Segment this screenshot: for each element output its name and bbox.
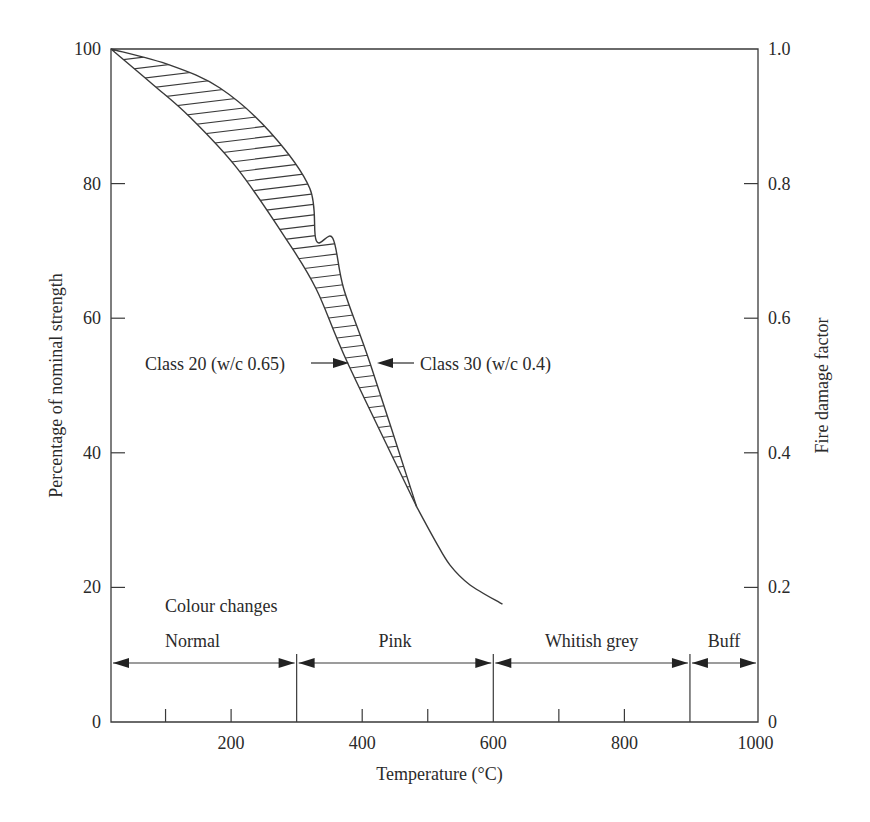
hatch-line xyxy=(100,71,460,115)
hatch-line xyxy=(100,260,460,304)
class-20-curve xyxy=(111,49,417,507)
hatch-line xyxy=(100,386,460,430)
hatch-line xyxy=(100,197,460,241)
colour-change-bands: Colour changesNormalPinkWhitish greyBuff xyxy=(113,596,756,722)
y-tick-label: 100 xyxy=(74,39,101,59)
hatch-line xyxy=(100,449,460,493)
y2-tick-label: 0.6 xyxy=(768,308,791,328)
hatch-line xyxy=(100,50,460,94)
hatch-line xyxy=(100,313,460,357)
hatch-line xyxy=(100,281,460,325)
arrow-left-icon xyxy=(299,658,315,668)
hatch-line xyxy=(100,376,460,420)
hatch-line xyxy=(100,176,460,220)
hatch-line xyxy=(100,19,460,63)
hatch-line xyxy=(100,103,460,147)
hatch-line xyxy=(100,155,460,199)
hatch-line xyxy=(100,134,460,178)
arrow-right-icon xyxy=(740,658,756,668)
strength-curves xyxy=(111,49,502,604)
arrow-right-icon xyxy=(279,658,295,668)
y-tick-label: 80 xyxy=(83,174,101,194)
x-axis-title: Temperature (°C) xyxy=(376,764,502,785)
hatch-line xyxy=(100,428,460,472)
hatch-line xyxy=(100,292,460,336)
class-30-label: Class 30 (w/c 0.4) xyxy=(420,354,551,375)
arrow-left-icon xyxy=(113,658,129,668)
hatch-line xyxy=(100,124,460,168)
y2-tick-label: 0.2 xyxy=(768,577,791,597)
y2-tick-label: 1.0 xyxy=(768,39,791,59)
arrow-right-icon xyxy=(672,658,688,668)
hatch-line xyxy=(100,239,460,283)
hatch-line xyxy=(100,187,460,231)
hatch-line xyxy=(100,302,460,346)
axes: 200400600800100002040608010000.20.40.60.… xyxy=(46,39,832,785)
hatch-line xyxy=(100,166,460,210)
y2-tick-label: 0 xyxy=(768,712,777,732)
hatched-band xyxy=(100,0,460,535)
colour-changes-title: Colour changes xyxy=(165,596,277,616)
band-label: Pink xyxy=(378,631,411,651)
hatch-line xyxy=(100,407,460,451)
hatch-line xyxy=(100,0,460,42)
class-20-label: Class 20 (w/c 0.65) xyxy=(145,354,285,375)
hatch-line xyxy=(100,418,460,462)
y2-axis-title: Fire damage factor xyxy=(812,318,832,454)
hatch-line xyxy=(100,61,460,105)
band-label: Normal xyxy=(165,631,220,651)
combined-tail-curve xyxy=(417,507,503,605)
hatch-line xyxy=(100,397,460,441)
x-tick-label: 400 xyxy=(349,733,376,753)
arrow-left-icon xyxy=(495,658,511,668)
hatch-line xyxy=(100,113,460,157)
y2-tick-label: 0.8 xyxy=(768,174,791,194)
strength-vs-temperature-chart: 200400600800100002040608010000.20.40.60.… xyxy=(0,0,870,822)
arrow-left-icon xyxy=(692,658,708,668)
hatch-line xyxy=(100,229,460,273)
hatch-line xyxy=(100,8,460,52)
hatch-line xyxy=(100,481,460,525)
x-tick-label: 800 xyxy=(611,733,638,753)
band-label: Buff xyxy=(708,631,741,651)
arrow-right-icon xyxy=(475,658,491,668)
class-30-curve xyxy=(111,49,417,507)
hatch-line xyxy=(100,491,460,535)
y-tick-label: 0 xyxy=(92,712,101,732)
y-tick-label: 40 xyxy=(83,443,101,463)
hatch-line xyxy=(100,470,460,514)
hatch-line xyxy=(100,145,460,189)
hatch-line xyxy=(100,460,460,504)
hatch-line xyxy=(100,40,460,84)
x-tick-label: 200 xyxy=(218,733,245,753)
y-tick-label: 20 xyxy=(83,577,101,597)
hatch-line xyxy=(100,82,460,126)
y2-tick-label: 0.4 xyxy=(768,443,791,463)
hatch-line xyxy=(100,0,460,31)
y-tick-label: 60 xyxy=(83,308,101,328)
hatch-line xyxy=(100,218,460,262)
hatch-line xyxy=(100,29,460,73)
hatch-line xyxy=(100,250,460,294)
plot-frame xyxy=(111,49,758,722)
x-tick-label: 600 xyxy=(480,733,507,753)
arrow-left-icon xyxy=(377,358,393,368)
x-tick-label: 1000 xyxy=(738,733,774,753)
y-axis-title: Percentage of nominal strength xyxy=(46,273,66,497)
hatch-line xyxy=(100,271,460,315)
band-label: Whitish grey xyxy=(545,631,638,651)
hatch-line xyxy=(100,92,460,136)
